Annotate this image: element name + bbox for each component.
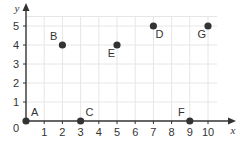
scatter-chart: 12345678910123450xy ABCDEFG	[0, 0, 248, 145]
x-tick-label: 9	[187, 126, 193, 138]
point-label-a: A	[31, 106, 39, 118]
point-label-e: E	[108, 47, 115, 59]
x-tick-label: 4	[96, 126, 102, 138]
origin-label: 0	[13, 122, 19, 134]
x-tick-label: 7	[150, 126, 156, 138]
x-tick-label: 3	[78, 126, 84, 138]
data-point-c	[77, 117, 84, 124]
point-label-c: C	[86, 106, 94, 118]
y-axis-arrow-icon	[23, 3, 30, 11]
y-tick-label: 3	[13, 58, 19, 70]
x-tick-label: 5	[114, 126, 120, 138]
x-tick-label: 10	[202, 126, 214, 138]
point-label-f: F	[178, 106, 185, 118]
x-tick-label: 1	[41, 126, 47, 138]
x-tick-label: 6	[132, 126, 138, 138]
point-label-g: G	[197, 28, 206, 40]
x-axis-label: x	[230, 124, 236, 136]
y-tick-label: 5	[13, 20, 19, 32]
data-point-b	[59, 41, 66, 48]
y-axis-label: y	[14, 2, 20, 14]
y-tick-label: 2	[13, 77, 19, 89]
y-tick-label: 1	[13, 96, 19, 108]
x-tick-label: 2	[59, 126, 65, 138]
point-label-d: D	[155, 28, 163, 40]
point-label-b: B	[50, 30, 57, 42]
data-point-f	[186, 117, 193, 124]
x-tick-label: 8	[169, 126, 175, 138]
tick-labels: 12345678910123450xy	[13, 2, 236, 138]
y-tick-label: 4	[13, 39, 19, 51]
data-point-a	[22, 117, 29, 124]
chart-canvas: 12345678910123450xy ABCDEFG	[0, 0, 248, 145]
